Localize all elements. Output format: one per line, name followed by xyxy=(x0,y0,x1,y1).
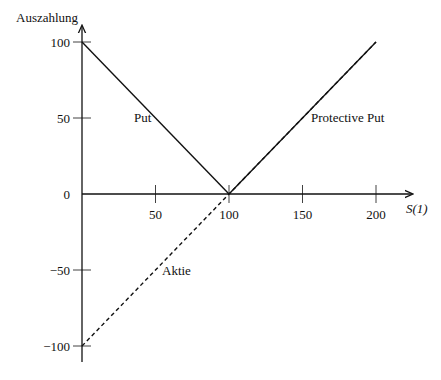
annotation-aktie: Aktie xyxy=(162,263,191,278)
x-tick-label: 100 xyxy=(219,207,239,222)
annotation-put: Put xyxy=(134,110,152,125)
x-axis-label: S(1) xyxy=(406,201,428,216)
series-put xyxy=(82,42,229,194)
x-tick-label: 150 xyxy=(293,207,313,222)
y-tick-label: 100 xyxy=(51,35,71,50)
y-tick-label: −50 xyxy=(50,263,70,278)
y-tick-label: 50 xyxy=(57,111,70,126)
x-tick-label: 200 xyxy=(366,207,386,222)
x-tick-label: 50 xyxy=(149,207,162,222)
y-axis-label: Auszahlung xyxy=(16,10,79,25)
payoff-chart: Auszahlung S(1) 50 100 150 200 100 50 0 … xyxy=(0,0,441,380)
y-tick-label: −100 xyxy=(43,339,70,354)
y-tick-label: 0 xyxy=(64,187,71,202)
annotation-protective-put: Protective Put xyxy=(311,110,385,125)
